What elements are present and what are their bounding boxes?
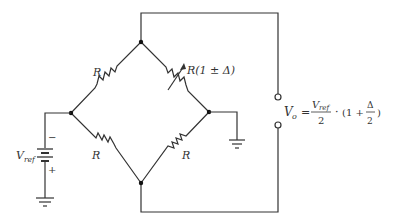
svg-text:2: 2 <box>367 116 373 126</box>
node-bottom <box>139 181 143 185</box>
svg-text:): ) <box>377 107 381 118</box>
resistor-bottom-right <box>141 112 209 183</box>
resistor-label-top-right: R(1 ± Δ) <box>186 64 235 77</box>
battery-plus-label: + <box>48 164 56 175</box>
resistor-top-left <box>71 42 141 113</box>
ground-icon-right <box>229 140 245 148</box>
resistor-label-bottom-right: R <box>181 149 190 162</box>
svg-text:(1 +: (1 + <box>342 107 364 118</box>
node-top <box>139 40 143 44</box>
source-label: V ref <box>16 149 36 164</box>
svg-text:o: o <box>292 112 297 121</box>
ground-wire-right <box>209 112 237 140</box>
svg-text:Δ: Δ <box>367 100 374 110</box>
bridge-circuit-diagram: − + V ref R R(1 ± Δ) R R V o = V ref 2 ·… <box>0 0 393 223</box>
variable-arrow-head-icon <box>180 63 186 70</box>
battery-minus-label: − <box>48 132 56 143</box>
resistor-top-right-variable <box>141 42 209 112</box>
resistor-label-top-left: R <box>92 66 101 79</box>
output-terminal-top <box>275 94 281 100</box>
svg-text:=: = <box>301 106 310 119</box>
resistor-label-bottom-left: R <box>91 149 100 162</box>
resistor-bottom-left <box>71 113 141 183</box>
output-terminal-bottom <box>275 122 281 128</box>
svg-text:2: 2 <box>318 115 324 126</box>
svg-text:ref: ref <box>24 155 36 164</box>
output-voltage-formula: V o = V ref 2 · (1 + Δ 2 ) <box>284 99 381 126</box>
bottom-output-wire <box>141 128 278 212</box>
svg-text:ref: ref <box>319 104 330 112</box>
ground-icon-left <box>36 198 54 206</box>
top-output-wire <box>141 13 278 94</box>
svg-text:·: · <box>335 106 339 119</box>
